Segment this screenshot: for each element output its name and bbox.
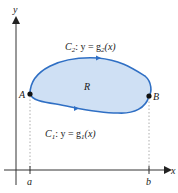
point-a-dot: [27, 91, 32, 96]
region-r: [30, 58, 151, 113]
point-b-label: B: [153, 91, 159, 102]
diagram-canvas: y x a b A B R C2: y = g2(x) C1: y = g1(x…: [0, 0, 178, 193]
tick-label-b: b: [146, 176, 151, 187]
x-axis-label: x: [170, 165, 176, 176]
region-label: R: [83, 81, 90, 92]
upper-curve-label: C2: y = g2(x): [65, 41, 116, 54]
lower-curve-label: C1: y = g1(x): [45, 128, 96, 141]
tick-label-a: a: [27, 176, 32, 187]
y-axis-label: y: [12, 4, 18, 15]
point-b-dot: [146, 93, 151, 98]
point-a-label: A: [18, 89, 26, 100]
